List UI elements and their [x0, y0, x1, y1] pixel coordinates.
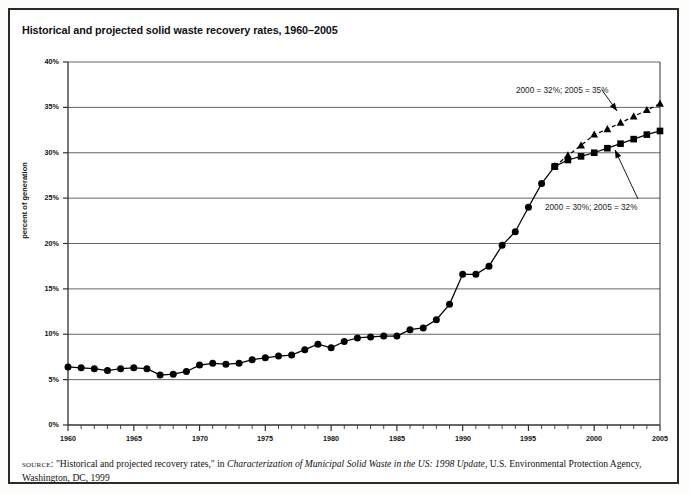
source-part1: : "Historical and projected recovery rat… [51, 458, 227, 469]
y-tick-label-15: 15% [28, 284, 59, 293]
y-tick-label-0: 0% [28, 420, 59, 429]
y-tick-label-10: 10% [28, 329, 59, 338]
x-tick-label-1980: 1980 [313, 434, 349, 443]
y-tick-label-30: 30% [28, 148, 59, 157]
x-tick-label-2000: 2000 [576, 434, 612, 443]
figure-frame [8, 8, 679, 484]
y-tick-label-20: 20% [28, 239, 59, 248]
projection-low-label: 2000 = 30%; 2005 = 32% [545, 203, 637, 212]
y-tick-label-40: 40% [28, 57, 59, 66]
x-tick-label-1995: 1995 [510, 434, 546, 443]
x-tick-label-1965: 1965 [116, 434, 152, 443]
y-tick-label-25: 25% [28, 193, 59, 202]
figure-page: Historical and projected solid waste rec… [0, 0, 689, 494]
x-tick-label-2005: 2005 [642, 434, 678, 443]
page-title: Historical and projected solid waste rec… [22, 24, 338, 36]
x-tick-label-1985: 1985 [379, 434, 415, 443]
source-title-italic: Characterization of Municipal Solid Wast… [227, 458, 485, 469]
y-axis-label: percent of generation [20, 141, 29, 261]
y-tick-label-5: 5% [28, 375, 59, 384]
x-tick-label-1960: 1960 [50, 434, 86, 443]
source-note: source: "Historical and projected recove… [22, 457, 650, 485]
y-tick-label-35: 35% [28, 102, 59, 111]
x-tick-label-1975: 1975 [247, 434, 283, 443]
x-tick-label-1990: 1990 [445, 434, 481, 443]
source-label: source [22, 459, 51, 469]
projection-high-label: 2000 = 32%; 2005 = 35% [516, 86, 608, 95]
x-tick-label-1970: 1970 [182, 434, 218, 443]
